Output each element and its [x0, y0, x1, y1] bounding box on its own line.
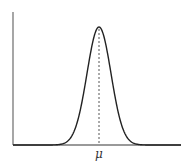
mean-label: μ — [95, 148, 103, 160]
normal-distribution-chart — [0, 0, 189, 167]
density-curve — [13, 27, 181, 145]
